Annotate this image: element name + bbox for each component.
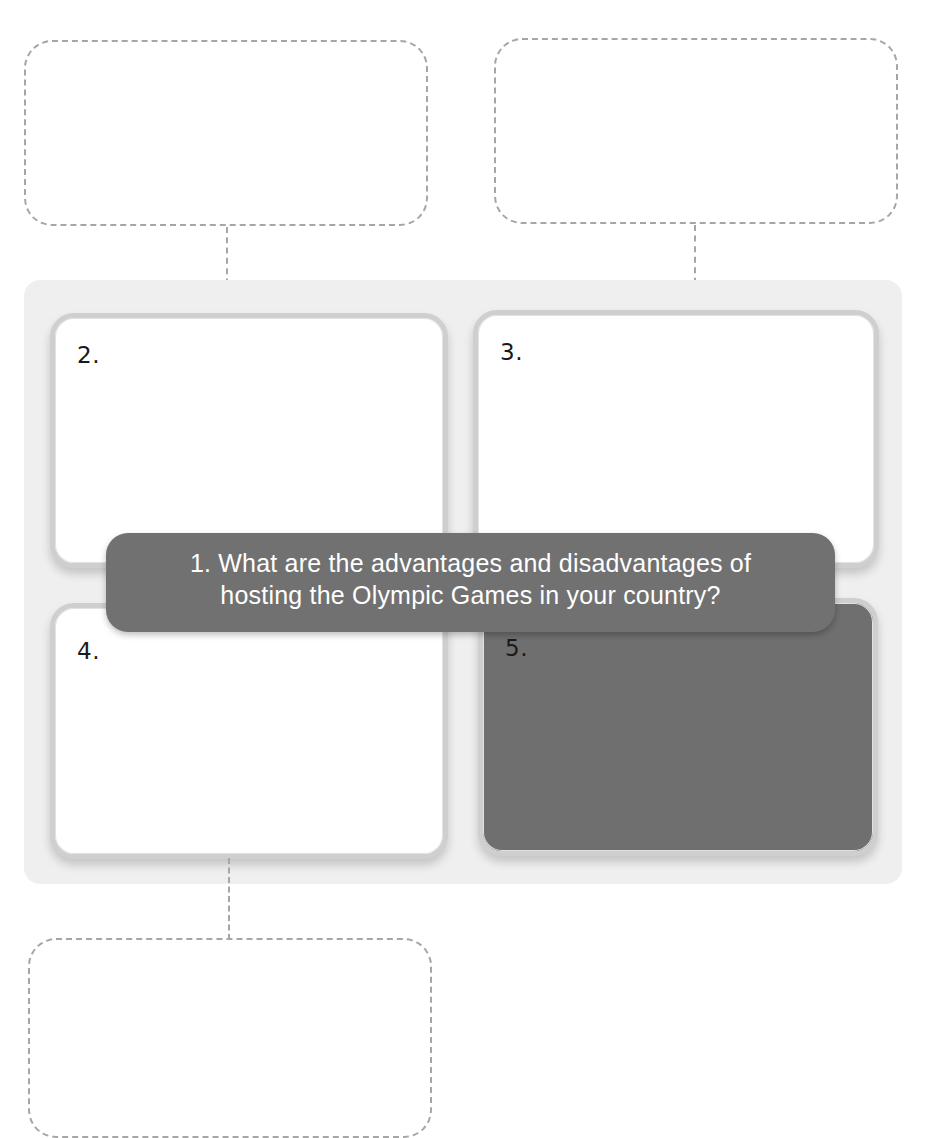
card-4-label: 4.	[77, 638, 100, 664]
card-3[interactable]: 3.	[473, 310, 879, 568]
card-3-label: 3.	[500, 339, 523, 365]
card-4[interactable]: 4.	[50, 603, 448, 859]
card-2-label: 2.	[77, 342, 100, 368]
answer-box-top-left[interactable]	[24, 40, 428, 226]
question-banner: 1. What are the advantages and disadvant…	[106, 533, 835, 632]
question-line-1: 1. What are the advantages and disadvant…	[106, 547, 835, 579]
card-2[interactable]: 2.	[50, 313, 448, 568]
question-line-2: hosting the Olympic Games in your countr…	[106, 579, 835, 611]
connector-line-card-4	[228, 858, 230, 940]
card-5[interactable]: 5.	[478, 598, 878, 856]
answer-box-bottom-left[interactable]	[28, 938, 432, 1138]
answer-box-top-right[interactable]	[494, 38, 898, 224]
card-5-label: 5.	[505, 635, 528, 661]
